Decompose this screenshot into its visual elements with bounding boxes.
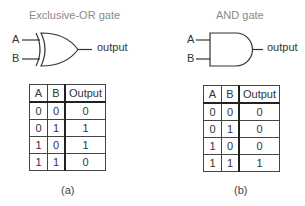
gate-symbols: [0, 0, 305, 80]
header-a: A: [204, 86, 222, 104]
cell-b: 0: [222, 138, 240, 155]
header-b: B: [48, 85, 66, 103]
header-b: B: [222, 86, 240, 104]
cell-output: 0: [239, 121, 280, 138]
cell-output: 1: [239, 155, 280, 172]
cell-a: 0: [204, 103, 222, 121]
header-output: Output: [239, 86, 280, 104]
header-a: A: [30, 85, 48, 103]
header-output: Output: [65, 85, 106, 103]
cell-output: 0: [65, 154, 106, 171]
cell-b: 1: [48, 120, 66, 137]
cell-output: 0: [239, 103, 280, 121]
table-row: 1 0 0: [204, 138, 280, 155]
xor-truth-table: A B Output 0 0 0 0 1 1 1 0 1 1 1 0: [29, 84, 106, 171]
cell-a: 1: [204, 155, 222, 172]
table-row: 0 0 0: [30, 102, 106, 120]
table-row: 1 1 0: [30, 154, 106, 171]
cell-output: 1: [65, 120, 106, 137]
xor-gate-icon: [22, 33, 92, 66]
table-row: 0 1 1: [30, 120, 106, 137]
cell-b: 1: [222, 121, 240, 138]
cell-a: 0: [204, 121, 222, 138]
cell-output: 0: [239, 138, 280, 155]
cell-b: 0: [48, 102, 66, 120]
table-row: 0 0 0: [204, 103, 280, 121]
and-gate-icon: [196, 33, 263, 66]
cell-output: 1: [65, 137, 106, 154]
table-row: 1 1 1: [204, 155, 280, 172]
table-row: 0 1 0: [204, 121, 280, 138]
table-header-row: A B Output: [30, 85, 106, 103]
cell-output: 0: [65, 102, 106, 120]
caption-a: (a): [61, 184, 74, 196]
cell-a: 0: [30, 120, 48, 137]
cell-a: 0: [30, 102, 48, 120]
cell-b: 0: [48, 137, 66, 154]
and-truth-table: A B Output 0 0 0 0 1 0 1 0 0 1 1 1: [203, 85, 280, 172]
cell-b: 1: [48, 154, 66, 171]
cell-b: 1: [222, 155, 240, 172]
cell-a: 1: [204, 138, 222, 155]
cell-b: 0: [222, 103, 240, 121]
cell-a: 1: [30, 137, 48, 154]
caption-b: (b): [234, 184, 247, 196]
table-header-row: A B Output: [204, 86, 280, 104]
cell-a: 1: [30, 154, 48, 171]
table-row: 1 0 1: [30, 137, 106, 154]
